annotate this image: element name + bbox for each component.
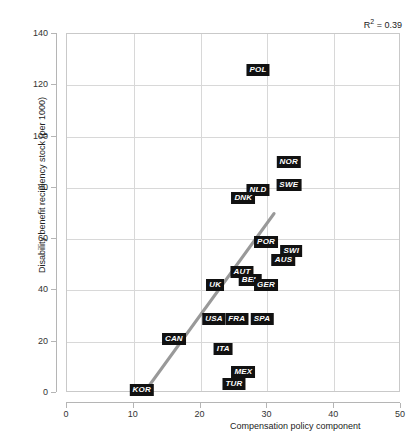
y-axis-tick <box>51 238 56 239</box>
data-point-label-can[interactable]: CAN <box>162 333 186 345</box>
data-point-label-aus[interactable]: AUS <box>272 254 296 266</box>
data-point-label-ger[interactable]: GER <box>254 279 278 291</box>
gridline-horizontal <box>67 239 399 240</box>
x-axis-tick-label: 10 <box>118 409 148 419</box>
data-point-label-swe[interactable]: SWE <box>276 179 301 191</box>
x-axis-tick <box>200 403 201 408</box>
y-axis-tick <box>51 392 56 393</box>
data-point-label-uk[interactable]: UK <box>206 279 224 291</box>
gridline-horizontal <box>67 188 399 189</box>
data-point-label-ita[interactable]: ITA <box>214 343 233 355</box>
gridline-horizontal <box>67 85 399 86</box>
y-axis-tick-label: 60 <box>18 233 48 243</box>
x-axis-tick <box>266 403 267 408</box>
x-axis-tick <box>133 403 134 408</box>
x-axis-tick-label: 20 <box>185 409 215 419</box>
gridline-horizontal <box>67 342 399 343</box>
y-axis-tick-label: 100 <box>18 131 48 141</box>
y-axis-tick-label: 80 <box>18 182 48 192</box>
x-axis-tick-label: 30 <box>251 409 281 419</box>
gridline-horizontal <box>67 137 399 138</box>
x-axis-tick <box>66 403 67 408</box>
y-axis-line <box>56 33 57 392</box>
y-axis-tick <box>51 136 56 137</box>
gridline-horizontal <box>67 290 399 291</box>
data-point-label-kor[interactable]: KOR <box>130 384 154 396</box>
gridline-vertical <box>334 34 335 391</box>
data-point-label-mex[interactable]: MEX <box>231 366 255 378</box>
data-point-label-nor[interactable]: NOR <box>277 156 301 168</box>
x-axis-tick-label: 0 <box>51 409 81 419</box>
data-point-label-spa[interactable]: SPA <box>251 313 273 325</box>
data-point-label-fra[interactable]: FRA <box>225 313 248 325</box>
gridline-vertical <box>134 34 135 391</box>
y-axis-tick-label: 120 <box>18 79 48 89</box>
data-point-label-por[interactable]: POR <box>254 236 278 248</box>
r-squared-value: 0.39 <box>384 20 402 30</box>
y-axis-tick <box>51 289 56 290</box>
data-point-label-pol[interactable]: POL <box>247 64 270 76</box>
data-point-label-tur[interactable]: TUR <box>222 378 245 390</box>
data-point-label-usa[interactable]: USA <box>202 313 226 325</box>
r-squared-annotation: R2 = 0.39 <box>364 18 402 30</box>
plot-area: POLNORSWENLDDNKPORSWIAUSAUTBELGERUKUSAFR… <box>66 33 400 392</box>
y-axis-tick <box>51 341 56 342</box>
x-axis-tick <box>400 403 401 408</box>
scatter-chart-figure: R2 = 0.39 Disability benefit recipiency … <box>0 0 420 443</box>
data-point-label-dnk[interactable]: DNK <box>231 192 255 204</box>
gridline-vertical <box>267 34 268 391</box>
x-axis-title: Compensation policy component <box>230 421 361 431</box>
y-axis-tick-label: 20 <box>18 336 48 346</box>
y-axis-tick <box>51 33 56 34</box>
y-axis-tick <box>51 84 56 85</box>
y-axis-tick <box>51 187 56 188</box>
gridline-vertical <box>201 34 202 391</box>
x-axis-tick-label: 40 <box>318 409 348 419</box>
x-axis-tick <box>333 403 334 408</box>
x-axis-line <box>66 402 400 403</box>
y-axis-tick-label: 140 <box>18 28 48 38</box>
regression-trendline <box>67 34 401 393</box>
y-axis-tick-label: 0 <box>18 387 48 397</box>
y-axis-tick-label: 40 <box>18 284 48 294</box>
x-axis-tick-label: 50 <box>385 409 415 419</box>
